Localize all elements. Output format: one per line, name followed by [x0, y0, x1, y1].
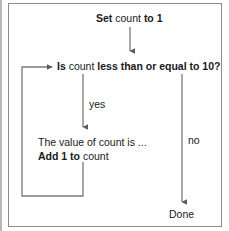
- node-init-seg-2: to 1: [144, 12, 163, 24]
- page-edge-strip: [0, 0, 2, 231]
- edge-label-no: no: [188, 135, 200, 146]
- node-condition-seg-2: less than or equal to 10?: [97, 60, 220, 72]
- node-init: Set count to 1: [96, 13, 163, 24]
- node-condition: Is count less than or equal to 10?: [57, 61, 220, 72]
- node-body-line1: The value of count is ...: [38, 137, 147, 148]
- node-end: Done: [169, 209, 194, 220]
- figure-border: [8, 3, 222, 227]
- node-init-seg-0: Set: [96, 12, 112, 24]
- node-body-line2-seg-1: count: [80, 150, 109, 162]
- node-init-seg-1: count: [112, 12, 144, 24]
- flowchart-figure: Set count to 1 Is count less than or equ…: [0, 0, 229, 231]
- node-condition-seg-0: Is: [57, 60, 66, 72]
- node-body-line2: Add 1 to count: [38, 151, 109, 162]
- node-body-line1-seg-0: The value of count is ...: [38, 136, 147, 148]
- node-body-line2-seg-0: Add 1 to: [38, 150, 80, 162]
- node-condition-seg-1: count: [66, 60, 98, 72]
- edge-label-yes: yes: [89, 99, 105, 110]
